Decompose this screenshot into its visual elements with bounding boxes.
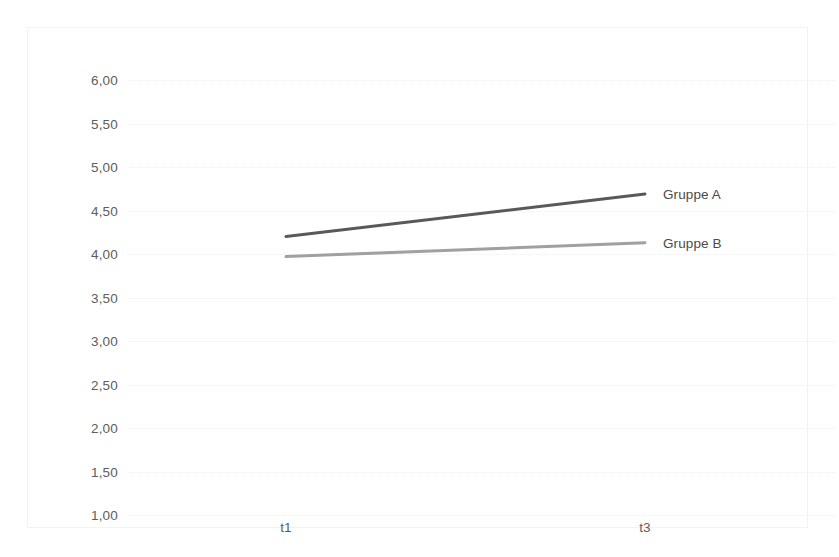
y-axis-tick-label: 1,00: [56, 508, 118, 523]
series-line: [286, 243, 645, 257]
y-axis-tick-label: 6,00: [56, 73, 118, 88]
y-axis-tick-labels: 6,005,505,004,504,003,503,002,502,001,50…: [56, 80, 118, 515]
y-axis-tick-label: 3,50: [56, 290, 118, 305]
y-axis-tick-label: 3,00: [56, 334, 118, 349]
y-axis-tick-label: 4,50: [56, 203, 118, 218]
plot-area: Gruppe AGruppe B: [128, 80, 835, 515]
x-axis-tick-labels: t1t3: [128, 520, 835, 548]
y-axis-tick-label: 2,50: [56, 377, 118, 392]
x-axis-tick-label: t3: [639, 520, 650, 535]
screenshot-root: 6,005,505,004,504,003,503,002,502,001,50…: [0, 0, 839, 557]
series-label: Gruppe B: [663, 235, 722, 250]
series-line: [286, 194, 645, 237]
series-label: Gruppe A: [663, 186, 721, 201]
x-axis-tick-label: t1: [280, 520, 291, 535]
chart-frame: 6,005,505,004,504,003,503,002,502,001,50…: [27, 27, 808, 528]
y-axis-tick-label: 5,00: [56, 160, 118, 175]
y-axis-tick-label: 5,50: [56, 116, 118, 131]
gridline: [128, 515, 835, 516]
y-axis-tick-label: 1,50: [56, 464, 118, 479]
y-axis-tick-label: 2,00: [56, 421, 118, 436]
y-axis-tick-label: 4,00: [56, 247, 118, 262]
series-lines: [128, 80, 835, 515]
